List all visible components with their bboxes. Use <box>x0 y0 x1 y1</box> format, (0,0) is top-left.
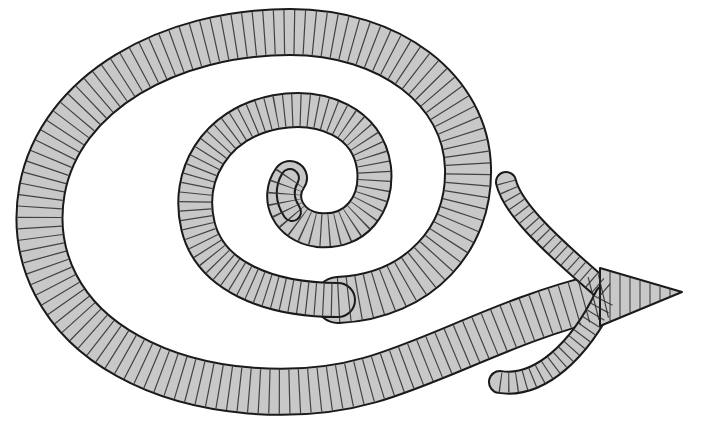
illustration-canvas: Hand-drawn spiral arrow <box>0 0 723 440</box>
spiral-arrow-icon <box>0 0 723 440</box>
